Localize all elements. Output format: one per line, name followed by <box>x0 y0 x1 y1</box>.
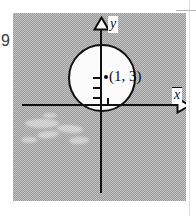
y-axis-tick-mark <box>93 77 101 79</box>
point-coordinate-label: (1, 3) <box>109 69 142 84</box>
coordinate-plane: y x (1, 3) <box>13 13 186 201</box>
margin-problem-number: 9 <box>1 33 10 49</box>
scanned-page: 9 y x <box>0 0 196 216</box>
figure-panel: y x (1, 3) <box>13 13 186 201</box>
y-axis-line <box>100 30 102 193</box>
y-axis-tick-mark <box>93 87 101 89</box>
y-axis-label: y <box>108 16 118 33</box>
x-axis-tick-mark <box>107 98 109 105</box>
y-axis-tick-mark <box>93 97 101 99</box>
scan-edge-artifact <box>176 10 196 11</box>
x-axis-label: x <box>172 87 182 104</box>
scan-edge-artifact <box>189 0 190 216</box>
